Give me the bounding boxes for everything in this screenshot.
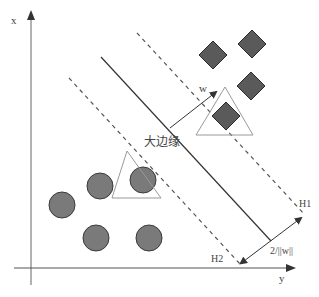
- horizontal-axis-label: y: [279, 272, 285, 284]
- circle-points: [49, 167, 162, 251]
- circle-point: [136, 225, 162, 251]
- diamond-point: [199, 41, 227, 69]
- vertical-axis-arrow-icon: [27, 10, 35, 20]
- diamond-point: [238, 30, 266, 58]
- circle-point-support-vector: [130, 167, 156, 193]
- w-vector-label: w: [199, 82, 207, 94]
- circle-point: [87, 173, 113, 199]
- h2-label: H2: [211, 253, 223, 264]
- h1-label: H1: [299, 198, 311, 209]
- diagram-svg: x y w 大边缘 2/||w||: [0, 0, 319, 297]
- svm-diagram: x y w 大边缘 2/||w||: [0, 0, 319, 297]
- w-vector-arrow: [170, 92, 216, 128]
- margin-width-label: 2/||w||: [270, 245, 293, 256]
- margin-label: 大边缘: [144, 135, 180, 149]
- vertical-axis-label: x: [11, 14, 17, 26]
- horizontal-axis-arrow-icon: [286, 264, 296, 272]
- circle-point: [83, 225, 109, 251]
- circle-point: [49, 192, 75, 218]
- diamond-points: [199, 30, 266, 130]
- diamond-point: [237, 72, 265, 100]
